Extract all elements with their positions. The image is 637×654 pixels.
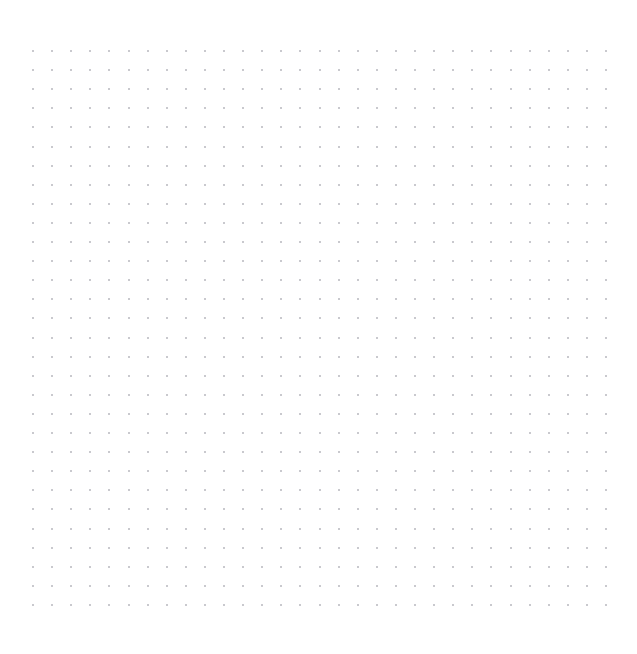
dot-grid-pattern — [0, 0, 637, 654]
dot-grid-canvas[interactable] — [0, 0, 637, 654]
